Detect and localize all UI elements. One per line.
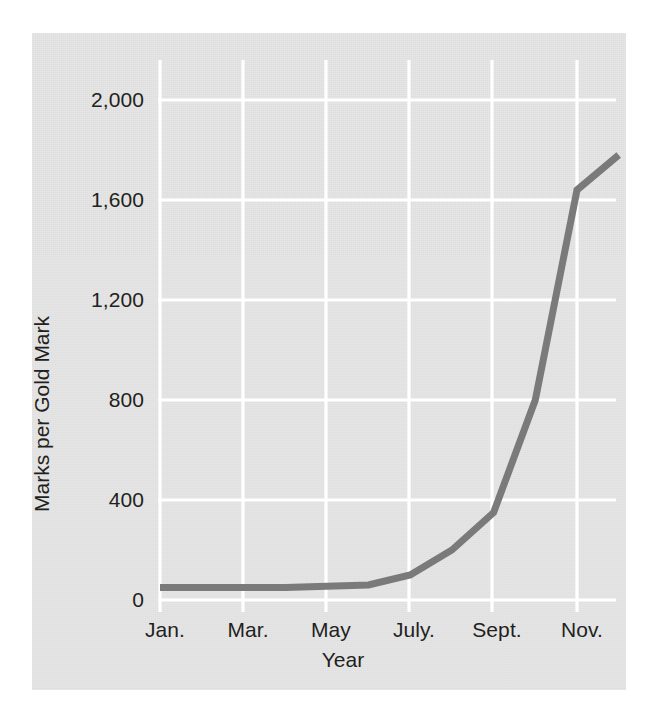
x-tick-label: July. xyxy=(369,618,459,642)
x-tick-label: May xyxy=(286,618,376,642)
y-tick-label: 800 xyxy=(52,388,144,412)
x-tick-label: Jan. xyxy=(120,618,210,642)
x-tick-label: Nov. xyxy=(537,618,627,642)
y-axis-title: Marks per Gold Mark xyxy=(30,316,54,512)
y-tick-label: 1,200 xyxy=(52,288,144,312)
x-tick-label: Sept. xyxy=(452,618,542,642)
x-axis-title: Year xyxy=(283,648,403,672)
data-series-line xyxy=(160,155,619,588)
y-tick-label: 1,600 xyxy=(52,188,144,212)
y-tick-label: 400 xyxy=(52,488,144,512)
x-tick-label: Mar. xyxy=(203,618,293,642)
y-tick-label: 0 xyxy=(52,588,144,612)
chart-screenshot: 2,000 1,600 1,200 800 400 0 Jan. Mar. Ma… xyxy=(0,0,656,717)
vertical-gridlines xyxy=(160,60,577,612)
y-tick-label: 2,000 xyxy=(52,88,144,112)
